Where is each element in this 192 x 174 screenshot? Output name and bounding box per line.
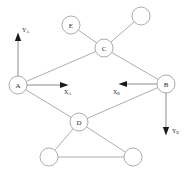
diagram-canvas: YAXAXBYB ABCDE xyxy=(0,0,192,174)
graph-node-a[interactable]: A xyxy=(9,76,27,94)
node-circle-n1[interactable] xyxy=(132,7,150,25)
axis-arrowhead-xb xyxy=(119,81,128,87)
node-label-a: A xyxy=(15,82,20,90)
graph-edge-c-n1 xyxy=(111,22,134,42)
axis-label-xb: XB xyxy=(113,89,120,96)
graph-edge-c-b xyxy=(112,53,158,80)
graph-node-n3[interactable] xyxy=(124,148,142,166)
axis-label-yb: YB xyxy=(172,128,179,135)
graph-edge-d-n2 xyxy=(55,129,73,150)
axis-label-subscript-xa: A xyxy=(68,91,71,96)
axis-label-subscript-yb: B xyxy=(176,130,179,135)
graph-node-d[interactable]: D xyxy=(70,113,88,131)
axis-arrowhead-yb xyxy=(163,127,169,136)
graph-node-n2[interactable] xyxy=(40,148,58,166)
node-circle-n2[interactable] xyxy=(40,148,58,166)
node-label-b: B xyxy=(164,81,169,89)
axis-label-xa: XA xyxy=(64,89,71,96)
axis-xb: XB xyxy=(113,81,157,96)
graph-node-e[interactable]: E xyxy=(62,16,80,34)
nodes-layer: ABCDE xyxy=(9,7,175,166)
axis-label-subscript-xb: B xyxy=(117,91,120,96)
graph-edge-d-n3 xyxy=(87,127,126,152)
node-label-d: D xyxy=(76,119,81,127)
graph-node-c[interactable]: C xyxy=(95,39,113,57)
axis-ya: YA xyxy=(15,27,29,76)
node-label-c: C xyxy=(102,45,107,53)
axis-xa: XA xyxy=(27,82,71,96)
graph-edge-e-c xyxy=(78,30,96,43)
axis-label-subscript-ya: A xyxy=(26,29,29,34)
graph-diagram: YAXAXBYB ABCDE xyxy=(0,0,192,174)
axis-arrowhead-ya xyxy=(15,33,21,42)
axis-arrowhead-xa xyxy=(60,82,69,88)
graph-edge-a-c xyxy=(26,52,95,82)
node-label-e: E xyxy=(69,22,73,30)
node-circle-n3[interactable] xyxy=(124,148,142,166)
graph-node-b[interactable]: B xyxy=(157,75,175,93)
graph-edge-d-b xyxy=(87,88,158,119)
graph-node-n1[interactable] xyxy=(132,7,150,25)
edges-layer xyxy=(26,22,159,157)
axis-yb: YB xyxy=(163,93,179,136)
axis-label-ya: YA xyxy=(22,27,29,34)
